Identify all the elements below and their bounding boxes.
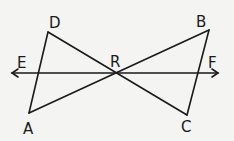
label-D: D xyxy=(49,14,61,32)
label-R: R xyxy=(110,53,120,71)
label-B: B xyxy=(196,13,206,31)
label-F: F xyxy=(208,54,217,72)
label-E: E xyxy=(17,54,26,72)
label-A: A xyxy=(23,120,34,138)
label-C: C xyxy=(181,118,191,136)
segment-AB xyxy=(29,30,209,113)
geometry-diagram: D B E R F A C xyxy=(0,0,234,141)
